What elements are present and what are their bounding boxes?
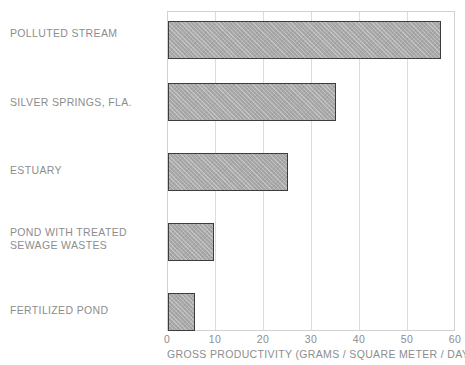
bar-chart: POLLUTED STREAM SILVER SPRINGS, FLA. EST… xyxy=(0,0,465,365)
bar-polluted-stream xyxy=(168,21,441,59)
x-tick-40: 40 xyxy=(353,333,365,345)
x-tick-0: 0 xyxy=(164,333,170,345)
category-label-silver-springs: SILVER SPRINGS, FLA. xyxy=(10,96,160,109)
bar-fertilized-pond xyxy=(168,293,195,331)
bar-silver-springs xyxy=(168,83,336,121)
x-tick-20: 20 xyxy=(257,333,269,345)
x-tick-10: 10 xyxy=(209,333,221,345)
gridline-50 xyxy=(407,12,408,330)
category-label-estuary: ESTUARY xyxy=(10,164,160,177)
gridline-40 xyxy=(359,12,360,330)
category-label-polluted-stream: POLLUTED STREAM xyxy=(10,27,160,40)
x-axis-title: GROSS PRODUCTIVITY (GRAMS / SQUARE METER… xyxy=(167,348,457,360)
x-axis-tick-labels: 0 10 20 30 40 50 60 xyxy=(167,333,455,349)
bar-pond-treated-sewage xyxy=(168,223,214,261)
gridline-30 xyxy=(311,12,312,330)
category-label-fertilized-pond: FERTILIZED POND xyxy=(10,304,160,317)
category-label-column: POLLUTED STREAM SILVER SPRINGS, FLA. EST… xyxy=(0,11,160,331)
plot-area xyxy=(167,11,455,331)
x-tick-50: 50 xyxy=(401,333,413,345)
category-label-pond-treated-sewage: POND WITH TREATED SEWAGE WASTES xyxy=(10,226,160,252)
x-tick-60: 60 xyxy=(449,333,461,345)
x-tick-30: 30 xyxy=(305,333,317,345)
bar-estuary xyxy=(168,153,288,191)
